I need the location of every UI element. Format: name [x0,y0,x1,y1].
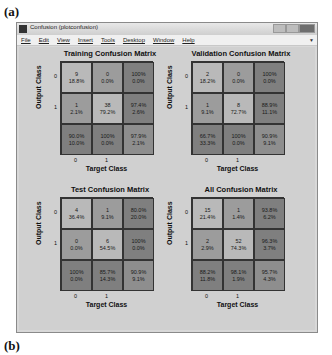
cell-count: 38 [104,102,110,109]
cell-count: 100% [131,238,145,245]
cell-percent: 3.7% [263,245,276,252]
window-title: Confusion (plotconfusion) [30,24,98,30]
matrix-cell: 15 21.4% [192,198,223,229]
cell-percent: 54.5% [100,245,116,252]
cell-percent: 18.2% [200,78,216,85]
y-tick: 0 [54,73,57,79]
matrix-cell: 0 0.0% [92,62,123,93]
cell-count: 100% [231,133,245,140]
cell-count: 98.1% [231,269,247,276]
matrix-cell: 97.4% 2.6% [123,93,154,124]
matrix-cell: 97.9% 2.1% [123,124,154,155]
test-confusion-matrix: Test Confusion MatrixOutput Class 0 1 4 … [35,185,185,325]
matrix-cell: 85.7% 14.3% [92,260,123,291]
matrix-grid: 15 21.4% 1 1.4% 93.8% 6.2% 2 2.9% [191,197,284,291]
matlab-app-icon [19,25,27,33]
cell-count: 0 [237,71,240,78]
menu-insert[interactable]: Insert [78,37,93,43]
cell-count: 1 [206,102,209,109]
cell-percent: 18.8% [69,78,85,85]
window-controls [273,24,315,33]
cell-count: 100% [100,133,114,140]
cell-percent: 6.2% [263,214,276,221]
matrix-cell: 100% 0.0% [123,229,154,260]
matrix-cell: 100% 0.0% [123,62,154,93]
matrix-cell: 100% 0.0% [61,260,92,291]
matrix-cell: 8 72.7% [223,93,254,124]
matrix-cell: 100% 0.0% [92,124,123,155]
x-axis-label: Target Class [191,301,284,308]
cell-percent: 0.0% [132,245,145,252]
cell-percent: 0.0% [70,245,83,252]
cell-count: 0 [106,71,109,78]
close-button[interactable] [299,24,315,33]
matrix-cell: 93.8% 6.2% [254,198,285,229]
matlab-figure-window: Confusion (plotconfusion) File Edit View… [16,22,318,333]
matrix-grid: 2 18.2% 0 0.0% 100% 0.0% 1 9.1% [191,61,284,155]
x-axis-label: Target Class [60,301,153,308]
cell-count: 96.3% [262,238,278,245]
cell-percent: 11.8% [200,276,215,283]
cell-percent: 0.0% [232,78,245,85]
matrix-cell: 88.2% 11.8% [192,260,223,291]
cell-percent: 14.3% [100,276,116,283]
menu-window[interactable]: Window [153,37,174,43]
matrix-cell: 38 79.2% [92,93,123,124]
matrix-grid: 9 18.8% 0 0.0% 100% 0.0% 1 2.1% [60,61,153,155]
matrix-title: All Confusion Matrix [166,185,316,194]
cell-percent: 72.7% [231,109,247,116]
x-tick: 0 [205,157,208,163]
cell-count: 90.9% [131,269,147,276]
matrix-cell: 0 0.0% [223,62,254,93]
cell-count: 2 [206,238,209,245]
menu-desktop[interactable]: Desktop [123,37,145,43]
cell-count: 52 [235,238,241,245]
matrix-cell: 95.7% 4.3% [254,260,285,291]
cell-count: 9 [75,71,78,78]
matrix-cell: 2 2.9% [192,229,223,260]
cell-count: 8 [237,102,240,109]
cell-percent: 9.1% [101,214,114,221]
y-tick: 0 [185,209,188,215]
cell-percent: 0.0% [70,276,83,283]
cell-count: 6 [106,238,109,245]
menu-tools[interactable]: Tools [101,37,115,43]
matrix-cell: 52 74.3% [223,229,254,260]
cell-count: 97.9% [131,133,147,140]
cell-count: 100% [262,71,276,78]
title-bar[interactable]: Confusion (plotconfusion) [17,23,317,35]
matrix-cell: 9 18.8% [61,62,92,93]
cell-percent: 79.2% [100,109,116,116]
matrix-cell: 6 54.5% [92,229,123,260]
cell-count: 100% [69,269,83,276]
minimize-button[interactable] [273,24,286,33]
cell-percent: 1.9% [232,276,245,283]
y-tick: 0 [185,73,188,79]
figure-label-b: (b) [4,338,20,354]
matrix-cell: 100% 0.0% [254,62,285,93]
cell-percent: 2.1% [132,140,145,147]
plot-area: Training Confusion MatrixOutput Class 0 … [19,47,315,330]
dock-arrow-icon[interactable]: ▼ [309,37,314,43]
maximize-button[interactable] [286,24,299,33]
menu-edit[interactable]: Edit [39,37,49,43]
menu-view[interactable]: View [57,37,70,43]
cell-percent: 0.0% [132,78,145,85]
matrix-cell: 98.1% 1.9% [223,260,254,291]
cell-percent: 0.0% [263,78,276,85]
matrix-cell: 90.9% 9.1% [123,260,154,291]
x-tick: 1 [105,157,108,163]
all-confusion-matrix: All Confusion MatrixOutput Class 0 1 15 … [166,185,316,325]
cell-count: 2 [206,71,209,78]
menu-help[interactable]: Help [182,37,194,43]
y-tick: 1 [185,240,188,246]
cell-percent: 9.1% [201,109,214,116]
cell-percent: 2.6% [132,109,145,116]
cell-percent: 21.4% [200,214,216,221]
y-axis-label: Output Class [166,65,173,109]
cell-percent: 11.1% [262,109,277,116]
menu-file[interactable]: File [21,37,31,43]
cell-count: 4 [75,207,78,214]
cell-percent: 9.1% [263,140,276,147]
matrix-cell: 88.9% 11.1% [254,93,285,124]
